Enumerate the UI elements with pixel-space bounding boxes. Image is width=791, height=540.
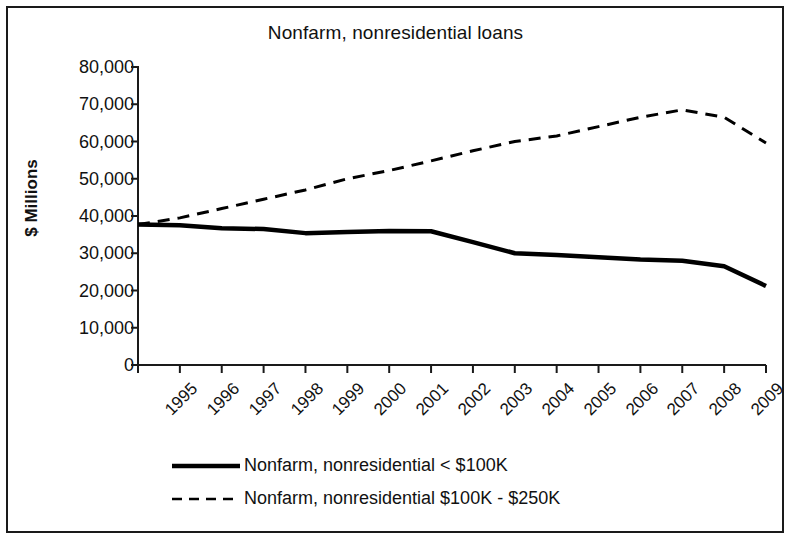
legend-item-dashed: Nonfarm, nonresidential $100K - $250K [170, 482, 730, 515]
chart-legend: Nonfarm, nonresidential < $100K Nonfarm,… [170, 449, 730, 515]
legend-label-dashed: Nonfarm, nonresidential $100K - $250K [244, 488, 560, 509]
series-line-2 [138, 110, 766, 225]
chart-page: Nonfarm, nonresidential loans $ Millions… [0, 0, 791, 540]
legend-item-solid: Nonfarm, nonresidential < $100K [170, 449, 730, 482]
legend-swatch-dashed-line [170, 492, 242, 506]
legend-label-solid: Nonfarm, nonresidential < $100K [244, 455, 508, 476]
legend-swatch-solid-line [170, 459, 242, 473]
series-line-1 [138, 225, 766, 286]
data-series [138, 110, 766, 286]
